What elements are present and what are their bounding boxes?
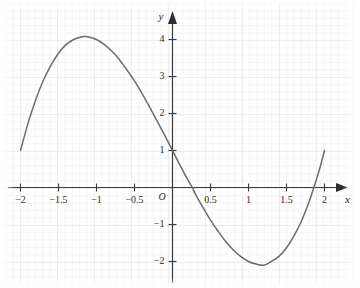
y-tick-label: −2 — [143, 255, 165, 266]
x-tick-label: 1 — [237, 194, 261, 205]
plot-area — [0, 0, 360, 288]
y-axis-arrow-icon — [168, 11, 177, 24]
y-tick-label: 1 — [143, 144, 165, 155]
x-tick-label: −1 — [85, 194, 109, 205]
x-axis-label: x — [345, 193, 350, 205]
y-tick-label: −1 — [143, 218, 165, 229]
y-tick-label: 4 — [143, 33, 165, 44]
x-axis-arrow-icon — [336, 183, 348, 192]
x-tick-label: 1.5 — [275, 194, 299, 205]
origin-label: O — [159, 191, 166, 202]
y-tick-label: 2 — [143, 107, 165, 118]
y-tick-label: 3 — [143, 70, 165, 81]
x-tick-label: 0.5 — [199, 194, 223, 205]
x-tick-label: −1.5 — [47, 194, 71, 205]
graph-figure: −2−1.5−1−0.50.511.52−2−11234 x y O — [0, 0, 360, 288]
x-tick-label: −2 — [9, 194, 33, 205]
y-axis-label: y — [159, 10, 164, 22]
x-tick-label: −0.5 — [123, 194, 147, 205]
x-tick-label: 2 — [313, 194, 337, 205]
